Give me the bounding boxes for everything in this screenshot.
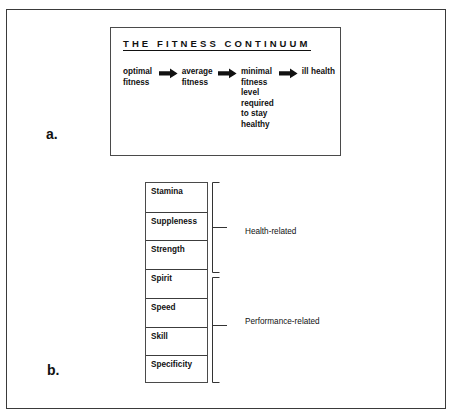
flow-stage-line: optimal <box>123 67 155 78</box>
flow-stage-line: ill health <box>302 67 335 78</box>
panel-b-label: b. <box>47 362 59 378</box>
flow-stage-line: fitness <box>123 78 155 89</box>
list-item: Stamina <box>146 183 207 212</box>
flow-stage-ill-health: ill health <box>302 67 335 78</box>
list-item: Skill <box>146 327 207 356</box>
bracket-performance-related <box>212 277 252 383</box>
flow-stage-line: to stay <box>241 109 275 120</box>
group-label-performance-related: Performance-related <box>245 317 320 326</box>
flow-stage-optimal-fitness: optimal fitness <box>123 67 155 88</box>
list-item-label: Speed <box>151 303 176 312</box>
list-item-label: Skill <box>151 332 168 341</box>
flow-stage-minimal-fitness: minimal fitness level required to stay h… <box>241 67 275 131</box>
figure-canvas: a. THE FITNESS CONTINUUM optimal fitness… <box>0 0 452 420</box>
arrow-right-icon <box>159 67 178 79</box>
list-item: Strength <box>146 240 207 269</box>
panel-a-label: a. <box>46 126 58 142</box>
flow-stage-line: required <box>241 99 275 110</box>
list-item: Specificity <box>146 355 207 384</box>
list-item-label: Specificity <box>151 360 192 369</box>
arrow-right-icon <box>279 67 298 79</box>
flow-stage-line: level <box>241 88 275 99</box>
group-label-health-related: Health-related <box>245 227 296 236</box>
list-item: Speed <box>146 298 207 327</box>
list-item-label: Suppleness <box>151 217 197 226</box>
seven-s-list-box: Stamina Suppleness Strength Spirit Speed… <box>145 182 208 383</box>
continuum-title: THE FITNESS CONTINUUM <box>123 38 311 51</box>
arrow-right-icon <box>218 67 237 79</box>
list-item-label: Stamina <box>151 187 183 196</box>
list-item: Spirit <box>146 269 207 298</box>
continuum-flow-row: optimal fitness average fitness minimal … <box>123 67 335 131</box>
flow-stage-line: healthy <box>241 120 275 131</box>
flow-stage-line: fitness <box>241 78 275 89</box>
flow-stage-line: fitness <box>182 78 214 89</box>
list-item: Suppleness <box>146 212 207 241</box>
flow-stage-line: minimal <box>241 67 275 78</box>
list-item-label: Spirit <box>151 274 172 283</box>
list-item-label: Strength <box>151 245 185 254</box>
fitness-continuum-box: THE FITNESS CONTINUUM optimal fitness av… <box>110 27 341 156</box>
flow-stage-average-fitness: average fitness <box>182 67 214 88</box>
flow-stage-line: average <box>182 67 214 78</box>
